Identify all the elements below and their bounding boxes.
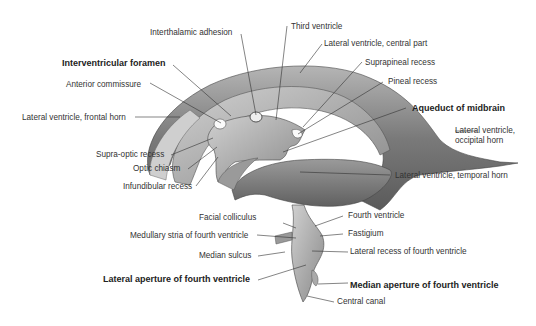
label-infundibular-recess: Infundibular recess	[123, 182, 192, 192]
lateral-recess-shape	[275, 232, 292, 244]
label-lateral-recess: Lateral recess of fourth ventricle	[350, 247, 467, 257]
label-facial-colliculus: Facial colliculus	[199, 213, 256, 223]
label-optic-chiasm: Optic chiasm	[133, 164, 180, 174]
ventricular-system-illustration	[0, 0, 536, 326]
label-pineal-recess: Pineal recess	[388, 77, 437, 87]
label-lateral-aperture: Lateral aperture of fourth ventricle	[103, 274, 250, 284]
interventricular-foramen-shape	[214, 119, 226, 129]
anatomy-figure: Interthalamic adhesion Third ventricle L…	[0, 0, 536, 326]
label-third-ventricle: Third ventricle	[291, 22, 342, 32]
label-central-canal: Central canal	[337, 297, 385, 307]
label-median-aperture: Median aperture of fourth ventricle	[350, 280, 499, 290]
label-occipital-horn-line1: Lateral ventricle,	[455, 126, 515, 136]
label-anterior-commissure: Anterior commissure	[66, 80, 141, 90]
label-aqueduct-of-midbrain: Aqueduct of midbrain	[412, 103, 505, 113]
fourth-ventricle-shape	[292, 205, 324, 302]
label-supra-optic-recess: Supra-optic recess	[96, 150, 164, 160]
label-median-sulcus: Median sulcus	[199, 251, 251, 261]
label-interventricular-foramen: Interventricular foramen	[62, 58, 166, 68]
label-lateral-ventricle-central-part: Lateral ventricle, central part	[324, 39, 427, 49]
label-medullary-stria: Medullary stria of fourth ventricle	[130, 231, 248, 241]
label-suprapineal-recess: Suprapineal recess	[365, 58, 435, 68]
label-fastigium: Fastigium	[348, 229, 384, 239]
median-aperture-shape	[312, 270, 318, 286]
label-lateral-ventricle-frontal-horn: Lateral ventricle, frontal horn	[22, 113, 126, 123]
label-fourth-ventricle: Fourth ventricle	[348, 211, 404, 221]
label-lateral-ventricle-temporal-horn: Lateral ventricle, temporal horn	[395, 171, 508, 181]
label-interthalamic-adhesion: Interthalamic adhesion	[150, 28, 232, 38]
label-occipital-horn-line2: occipital horn	[455, 136, 503, 146]
